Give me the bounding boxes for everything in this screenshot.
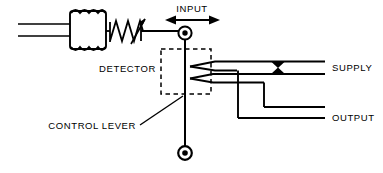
adjustment-spring — [106, 19, 180, 44]
detector-label: DETECTOR — [99, 63, 156, 74]
bellows-assembly — [18, 10, 106, 50]
output-label: OUTPUT — [332, 112, 375, 123]
output-piping — [238, 71, 325, 119]
restriction-upper-triangle-icon — [271, 62, 285, 69]
input-group: INPUT — [165, 3, 220, 25]
restriction-lower-triangle-icon — [271, 68, 285, 75]
control-lever-group — [178, 26, 192, 159]
diagram-root: INPUT DETECTOR — [0, 0, 383, 173]
control-lever-callout: CONTROL LEVER — [48, 96, 183, 131]
bellows-outline — [70, 11, 106, 49]
supply-restriction-orifice — [271, 62, 285, 75]
lower-nozzle-taper — [190, 74, 325, 79]
input-arrowhead-right-icon — [209, 16, 220, 25]
supply-label: SUPPLY — [332, 62, 372, 73]
schematic-canvas: INPUT DETECTOR — [0, 0, 383, 173]
upper-pivot-center-dot — [182, 30, 187, 35]
control-lever-leader-line — [140, 96, 183, 125]
input-label: INPUT — [176, 3, 208, 14]
control-lever-label: CONTROL LEVER — [48, 120, 136, 131]
lower-nozzle-taper-lower-edge — [190, 79, 264, 83]
upper-nozzle-taper-lower-edge — [190, 67, 237, 71]
lower-pivot-center-dot — [182, 150, 188, 156]
input-arrowhead-left-icon — [165, 16, 176, 25]
